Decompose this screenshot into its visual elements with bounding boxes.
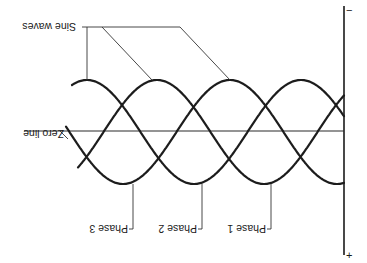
phase-3-label: Phase 3 xyxy=(89,223,128,235)
sine-waves-label: Sine waves xyxy=(22,21,76,33)
three-phase-diagram: − + Sine waves Zero line Phase 1 Phase 2… xyxy=(0,0,367,263)
zero-line-label: Zero line xyxy=(23,128,64,140)
phase-3-leader xyxy=(129,184,133,229)
phase-1-leader xyxy=(267,184,271,229)
axis-plus-sign: + xyxy=(346,249,352,261)
phase-2-leader xyxy=(198,184,202,229)
phase-2-wave xyxy=(72,80,344,184)
axis-minus-sign: − xyxy=(346,4,352,16)
phase-2-label: Phase 2 xyxy=(158,223,197,235)
phase-1-label: Phase 1 xyxy=(227,223,266,235)
sine-waves-leader xyxy=(82,27,230,80)
sine-waves-leader-2 xyxy=(102,27,152,80)
phase-3-wave xyxy=(66,80,344,184)
phase-1-wave xyxy=(78,80,344,184)
